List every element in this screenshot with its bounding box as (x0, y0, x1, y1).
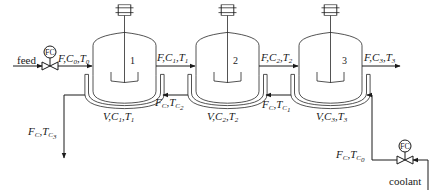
product-stream-label: F,C3,T3 (363, 51, 396, 65)
feed-label: feed (17, 54, 36, 66)
reactor-1 (85, 5, 164, 109)
coolant-to-jacket-3-line (367, 95, 397, 160)
reactor-3-number: 3 (342, 55, 347, 66)
reactor-2-number: 2 (233, 55, 238, 66)
reactor-1-contents: V,C1,T1 (103, 110, 134, 124)
reactor-1-number: 1 (130, 55, 135, 66)
feed-flow-control-valve: FC (42, 46, 58, 70)
feed-stream-label: F,C0,T0 (57, 52, 90, 66)
reactor-3-contents: V,C3,T3 (316, 110, 348, 124)
reactor-2-contents: V,C2,T2 (207, 110, 239, 124)
coolant-3-2-label: FC,TC1 (261, 98, 290, 114)
svg-text:FC: FC (400, 142, 410, 151)
cstr-cascade-diagram: 1 2 3 V,C1,T1 V,C2,T2 V,C3,T3 feed FC F,… (0, 0, 436, 196)
svg-text:FC: FC (45, 48, 55, 57)
coolant-out-line (64, 95, 85, 158)
coolant-out-label: FC,TC3 (27, 125, 57, 141)
stream-1-2-label: F,C1,T1 (156, 51, 188, 65)
reactor-2 (188, 5, 267, 109)
reactor-3 (291, 5, 370, 109)
coolant-2-1-label: FC,TC2 (154, 96, 184, 112)
coolant-in-label: FC,TC0 (335, 148, 365, 164)
coolant-flow-control-valve: FC (397, 140, 413, 164)
stream-2-3-label: F,C2,T2 (260, 51, 293, 65)
coolant-label: coolant (389, 175, 421, 187)
